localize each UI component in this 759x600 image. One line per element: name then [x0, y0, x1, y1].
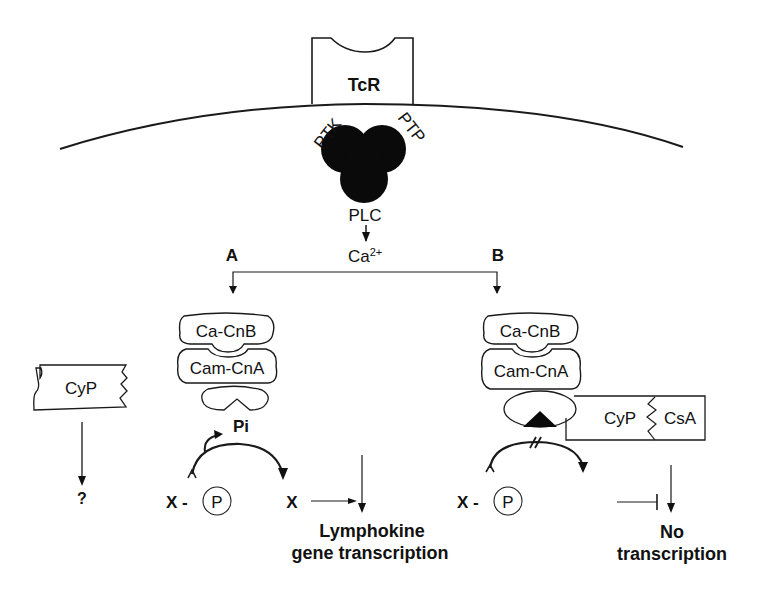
cyp-csa-complex: CyP CsA	[566, 396, 705, 440]
lymphokine-outcome-line1: Lymphokine	[319, 521, 424, 541]
blocked-active-site	[523, 411, 557, 427]
tcr-label: TcR	[348, 75, 381, 95]
no-transcription-line2: transcription	[617, 544, 727, 564]
no-transcription-line1: No	[660, 522, 684, 542]
branch-b-label: B	[492, 246, 504, 265]
cyp-side-panel: CyP ?	[34, 365, 127, 507]
calcineurin-pathway-diagram: TcR PTK PTP PLC Ca2+ A B CyP ? Ca-CnB Ca…	[0, 0, 759, 600]
plc-label: PLC	[348, 206, 381, 225]
unknown-outcome: ?	[77, 490, 87, 507]
cna-label-a: Cam-CnA	[190, 359, 265, 378]
calcineurin-complex-b: Ca-CnB Cam-CnA	[482, 313, 581, 427]
phospho-substrate-x-b: X -	[457, 493, 479, 512]
dephosphorylated-x: X	[286, 493, 298, 512]
phosphate-p-b: P	[502, 493, 513, 512]
calcium-charge: 2+	[370, 246, 383, 258]
cyp-label-b: CyP	[604, 409, 636, 428]
cnb-label-b: Ca-CnB	[500, 322, 560, 341]
cna-label-b: Cam-CnA	[494, 362, 569, 381]
lymphokine-outcome-line2: gene transcription	[291, 543, 448, 563]
calcineurin-complex-a: Ca-CnB Cam-CnA	[178, 313, 277, 410]
calcium-label: Ca2+	[348, 246, 382, 266]
cyp-label: CyP	[65, 379, 97, 398]
kinase-complex: PTK PTP PLC	[310, 109, 429, 225]
catalytic-lobe-a	[202, 386, 269, 410]
cnb-label-a: Ca-CnB	[196, 322, 256, 341]
phospho-substrate-x-a: X -	[166, 493, 188, 512]
binding-zigzag	[647, 397, 656, 440]
phosphate-label: Pi	[233, 417, 249, 436]
tcr-receptor: TcR	[312, 38, 413, 104]
csa-label: CsA	[664, 409, 697, 428]
branch-line	[233, 272, 497, 293]
branch-a-label: A	[226, 246, 238, 265]
phosphate-p-a: P	[211, 493, 222, 512]
